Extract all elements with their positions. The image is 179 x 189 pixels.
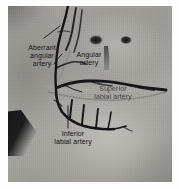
label-aberrant-angular-artery: Aberrant angular artery [14,44,70,69]
anatomical-photograph: Aberrant angular artery Angular artery S… [8,6,172,182]
label-line-1: Superior [84,85,142,93]
label-line-2: angular [14,52,70,60]
label-angular-artery: Angular artery [65,51,113,67]
label-line-2: labial artery [84,93,142,101]
label-inferior-labial-artery: Inferior labial artery [38,130,108,146]
label-superior-labial-artery: Superior labial artery [84,85,142,101]
label-line-3: artery [14,60,70,68]
figure-root: Aberrant angular artery Angular artery S… [0,0,179,189]
leader-line-superior-labial-artery [66,86,82,92]
label-line-1: Angular [65,51,113,59]
label-line-2: labial artery [38,138,108,146]
label-line-1: Aberrant [14,44,70,52]
label-line-1: Inferior [38,130,108,138]
leader-line-aberrant-angular-artery [44,26,60,38]
label-line-2: artery [65,59,113,67]
